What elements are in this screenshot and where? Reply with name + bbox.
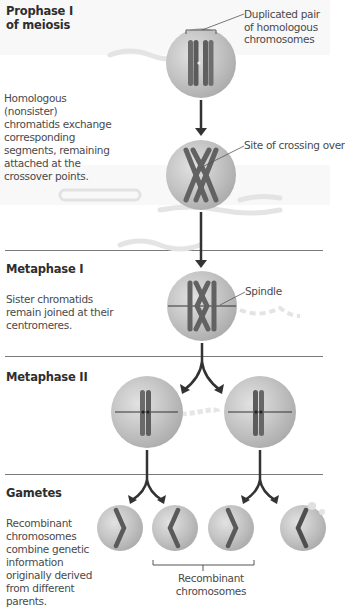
- gamete-cell-1: [97, 505, 143, 551]
- gamete-cell-3: [208, 505, 254, 551]
- recombinant-bracket: [153, 560, 254, 565]
- split-arrow-icon: [184, 343, 220, 390]
- metaphase-2-cell-left: [111, 376, 183, 448]
- gamete-cell-2: [152, 505, 198, 551]
- prophase-cell-homologous-pair: [166, 14, 244, 98]
- metaphase-1-cell: [167, 271, 245, 341]
- crossing-over-cell: [166, 140, 244, 210]
- split-arrow-icon: [132, 450, 275, 500]
- gamete-cell-4: [280, 502, 326, 551]
- metaphase-2-cell-right: [224, 376, 296, 448]
